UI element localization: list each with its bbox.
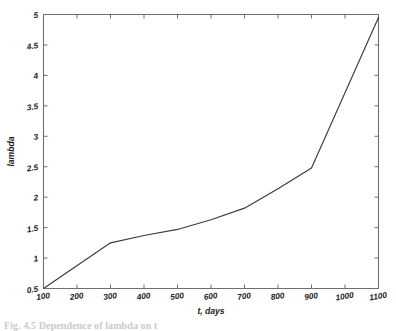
x-axis-title: t, days	[197, 306, 224, 316]
y-tick-label: 0.5	[26, 285, 39, 296]
y-tick-label: 3.5	[26, 102, 39, 113]
y-axis-title: lambda	[6, 136, 16, 166]
figure-caption: Fig. 4.5 Dependence of lambda on t	[4, 320, 157, 331]
y-tick-label: 1.5	[26, 224, 39, 235]
